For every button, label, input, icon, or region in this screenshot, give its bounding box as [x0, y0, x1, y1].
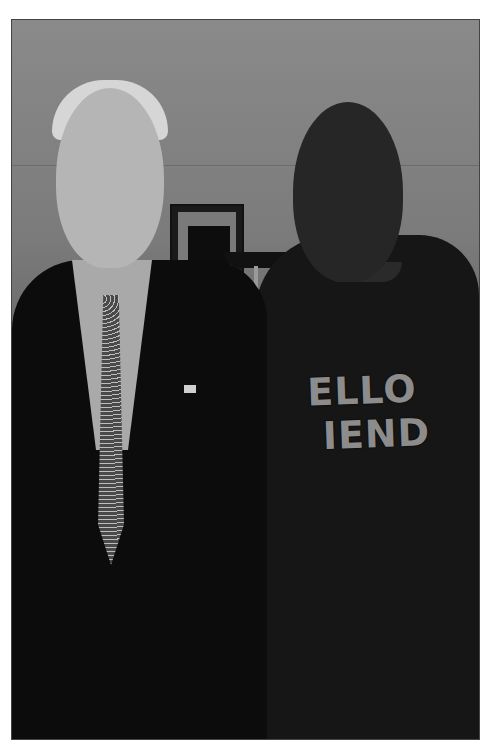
shirt-text-line-2: IEND [308, 410, 449, 459]
shirt-text: ELLO IEND [307, 366, 450, 459]
right-person-head [293, 102, 403, 282]
photograph: ELLO IEND [12, 20, 479, 739]
flag-pin-icon [184, 385, 196, 393]
right-person-sweatshirt [255, 235, 479, 739]
left-person-head [56, 88, 164, 268]
shirt-text-line-1: ELLO [307, 366, 448, 415]
